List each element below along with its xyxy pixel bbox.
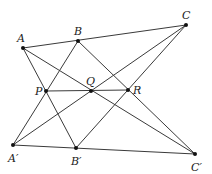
label-q: Q [86,75,95,88]
label-r: R [132,84,141,97]
point-b [76,39,80,43]
label-b: B [73,25,82,38]
line-a-c2 [23,48,195,154]
label-b2: B′ [70,155,82,168]
point-c [184,23,188,27]
line-a2-b [13,41,78,145]
label-a2: A′ [7,152,19,165]
label-a: A [16,32,25,45]
line-a2b2c2 [13,145,195,154]
pappus-diagram: ABCPQRA′B′C′ [0,0,212,174]
label-c2: C′ [191,161,202,174]
line-pqr [46,90,128,91]
label-c: C [182,9,191,22]
label-p: P [34,85,43,98]
point-p [44,89,48,93]
line-b-c2 [78,41,195,154]
point-q [89,89,93,93]
point-a [21,46,25,50]
point-c2 [193,152,197,156]
line-abc [23,25,186,48]
point-r [126,88,130,92]
point-b2 [74,146,78,150]
point-a2 [11,143,15,147]
